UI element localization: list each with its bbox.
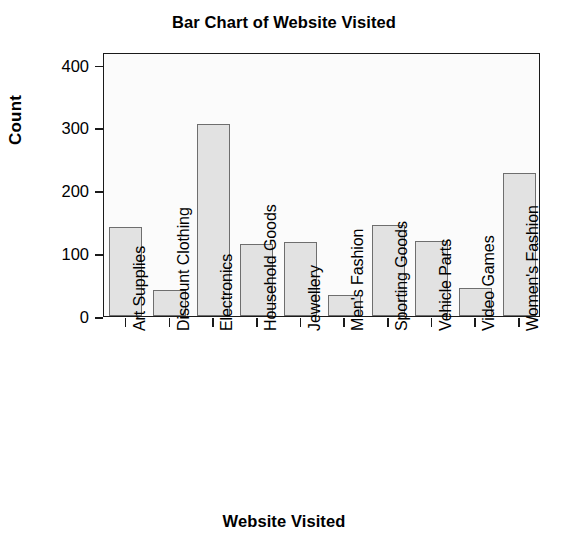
x-tick-label: Discount Clothing bbox=[175, 207, 192, 331]
x-tick-mark bbox=[256, 318, 258, 327]
x-tick-label: Art Supplies bbox=[131, 246, 148, 331]
x-tick-label: Sporting Goods bbox=[393, 221, 410, 331]
x-axis: Art SuppliesDiscount ClothingElectronics… bbox=[0, 0, 568, 560]
x-tick-label: Women's Fashion bbox=[524, 205, 541, 331]
x-tick-mark bbox=[212, 318, 214, 327]
x-tick-label: Household Goods bbox=[262, 204, 279, 331]
x-tick-label: Men's Fashion bbox=[349, 229, 366, 331]
x-tick-mark bbox=[169, 318, 171, 327]
x-tick-mark bbox=[518, 318, 520, 327]
x-tick-label: Vehicle Parts bbox=[437, 239, 454, 331]
x-tick-mark bbox=[387, 318, 389, 327]
x-tick-label: Electronics bbox=[218, 254, 235, 331]
x-axis-title: Website Visited bbox=[0, 512, 568, 531]
x-tick-mark bbox=[300, 318, 302, 327]
x-tick-label: Jewellery bbox=[306, 265, 323, 331]
bar-chart-figure: Bar Chart of Website Visited Count 01002… bbox=[0, 0, 568, 560]
x-tick-mark bbox=[474, 318, 476, 327]
x-tick-mark bbox=[343, 318, 345, 327]
x-tick-mark bbox=[431, 318, 433, 327]
x-tick-label: Video Games bbox=[480, 235, 497, 331]
x-tick-mark bbox=[125, 318, 127, 327]
